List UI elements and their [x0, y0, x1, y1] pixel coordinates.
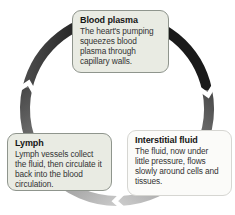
node-interstitial-fluid: Interstitial fluid The fluid, now under …	[127, 130, 232, 196]
node-interstitial-fluid-body: The fluid, now under little pressure, fl…	[135, 146, 224, 186]
node-lymph-body: Lymph vessels collect the fluid, then ci…	[15, 149, 104, 189]
node-lymph-title: Lymph	[15, 138, 104, 149]
node-blood-plasma-body: The heart's pumping squeezes blood plasm…	[80, 26, 161, 66]
node-lymph: Lymph Lymph vessels collect the fluid, t…	[7, 133, 112, 191]
node-interstitial-fluid-title: Interstitial fluid	[135, 135, 224, 146]
node-blood-plasma-title: Blood plasma	[80, 15, 161, 26]
cycle-diagram: Blood plasma The heart's pumping squeeze…	[0, 0, 235, 215]
node-blood-plasma: Blood plasma The heart's pumping squeeze…	[72, 10, 169, 73]
